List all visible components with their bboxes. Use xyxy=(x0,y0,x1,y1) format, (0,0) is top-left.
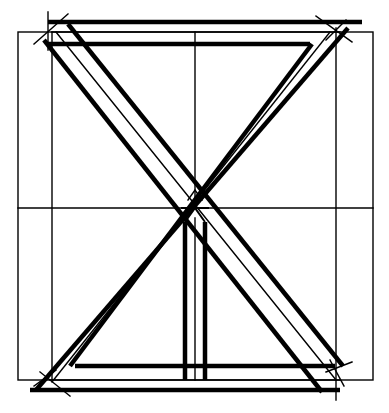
frame-diagram: Square frame with X-shaped diagonal cros… xyxy=(0,0,389,413)
top-rail xyxy=(48,22,362,44)
inner-guide-verticals xyxy=(52,28,336,400)
